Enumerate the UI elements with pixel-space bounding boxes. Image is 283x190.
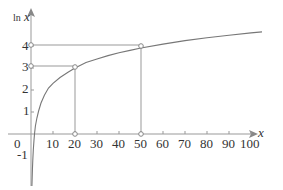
ln-curve — [32, 32, 262, 186]
y-axis-var: x — [23, 9, 30, 24]
y-tick-3: 3 — [22, 59, 29, 74]
x-tick-60: 60 — [156, 136, 169, 151]
x-tick-70: 70 — [178, 136, 191, 151]
point-50-ln50 — [139, 44, 144, 49]
x-tick-40: 40 — [112, 136, 125, 151]
x-tick-0: 0 — [14, 136, 21, 151]
y-tick-4: 4 — [22, 38, 29, 53]
x-tick-30: 30 — [90, 136, 103, 151]
y-axis-label: ln — [13, 12, 21, 23]
x-tick-100: 100 — [240, 136, 260, 151]
x-tick-90: 90 — [222, 136, 235, 151]
x-tick-20: 20 — [68, 136, 81, 151]
x-tick-10: 10 — [46, 136, 59, 151]
ln-chart: ln x x 4 3 2 1 -1 0 10 20 30 40 50 60 70… — [0, 0, 283, 190]
point-axis-y3 — [29, 64, 34, 69]
point-axis-y4 — [29, 43, 34, 48]
y-tick-1: 1 — [23, 103, 30, 118]
y-tick-2: 2 — [22, 81, 29, 96]
x-tick-80: 80 — [200, 136, 213, 151]
point-20-ln20 — [73, 65, 78, 70]
x-tick-50: 50 — [134, 136, 147, 151]
